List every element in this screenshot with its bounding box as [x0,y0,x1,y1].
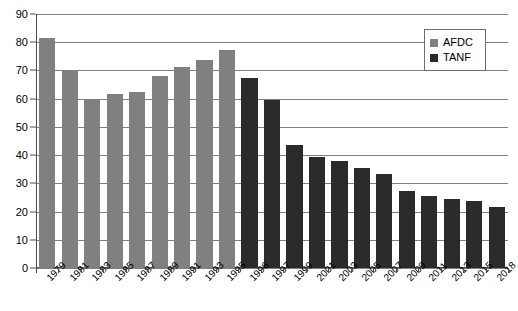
y-axis-tick-label: 80 [16,37,28,48]
bar-slot [36,14,58,268]
bar-slot [126,14,148,268]
bar-afdc-1979[interactable] [39,38,55,268]
bar-slot [171,14,193,268]
x-axis-tick-mark [193,268,194,273]
y-axis-tick-label: 90 [16,9,28,20]
bar-slot [373,14,395,268]
x-axis-tick-mark [373,268,374,273]
bar-afdc-1993[interactable] [196,60,212,268]
bar-slot [396,14,418,268]
x-axis-tick-mark [441,268,442,273]
bar-tanf-1996[interactable] [241,78,257,268]
x-axis-tick-mark [81,268,82,273]
bar-slot [261,14,283,268]
y-axis: 9080706050403020100 [0,0,36,269]
x-axis-tick-mark [486,268,487,273]
x-axis-tick-mark [306,268,307,273]
bar-afdc-1989[interactable] [152,76,168,268]
y-axis-tick-label: 40 [16,150,28,161]
bar-tanf-2011[interactable] [421,196,437,268]
x-axis-tick-mark [418,268,419,273]
bar-afdc-1995[interactable] [219,50,235,268]
x-axis-tick-mark [261,268,262,273]
bar-tanf-2018[interactable] [489,207,505,268]
x-axis-tick-mark [126,268,127,273]
x-axis-tick-mark [171,268,172,273]
x-axis-tick-mark [508,268,509,273]
bar-slot [216,14,238,268]
x-axis: 1979198119831985198719891991199319951996… [36,268,508,311]
bar-tanf-2013[interactable] [444,199,460,268]
bar-tanf-2001[interactable] [309,157,325,268]
bar-afdc-1983[interactable] [84,99,100,268]
x-axis-tick-mark [283,268,284,273]
bar-slot [351,14,373,268]
legend-swatch-icon [430,39,438,47]
bar-tanf-2003[interactable] [331,161,347,268]
x-axis-tick-mark [216,268,217,273]
legend-label: AFDC [443,37,473,48]
bar-slot [238,14,260,268]
bar-tanf-1997[interactable] [264,100,280,268]
x-axis-tick-mark [351,268,352,273]
bar-tanf-2007[interactable] [376,174,392,268]
x-axis-tick-mark [238,268,239,273]
bar-afdc-1987[interactable] [129,92,145,268]
legend-item-afdc[interactable]: AFDC [430,35,479,50]
bar-tanf-2009[interactable] [399,191,415,268]
bar-slot [283,14,305,268]
legend-label: TANF [443,52,471,63]
y-axis-tick-label: 50 [16,121,28,132]
bar-chart: 9080706050403020100 19791981198319851987… [0,0,518,311]
bar-slot [148,14,170,268]
y-axis-tick-label: 60 [16,93,28,104]
bar-afdc-1981[interactable] [62,71,78,268]
bar-tanf-1999[interactable] [286,145,302,268]
bar-tanf-2005[interactable] [354,168,370,268]
x-axis-tick-mark [103,268,104,273]
chart-legend: AFDCTANF [424,29,486,71]
bar-slot [486,14,508,268]
bar-slot [193,14,215,268]
legend-item-tanf[interactable]: TANF [430,50,479,65]
bar-afdc-1991[interactable] [174,67,190,268]
x-axis-tick-mark [463,268,464,273]
bar-slot [103,14,125,268]
legend-swatch-icon [430,54,438,62]
bar-afdc-1985[interactable] [107,94,123,268]
x-axis-tick-mark [58,268,59,273]
x-axis-tick-mark [148,268,149,273]
bar-slot [81,14,103,268]
y-axis-tick-label: 0 [22,263,28,274]
y-axis-tick-label: 70 [16,65,28,76]
bar-tanf-2015[interactable] [466,201,482,268]
bar-slot [58,14,80,268]
y-axis-tick-label: 20 [16,206,28,217]
bar-slot [328,14,350,268]
bar-slot [306,14,328,268]
y-axis-tick-label: 10 [16,234,28,245]
x-axis-tick-mark [328,268,329,273]
y-axis-tick-label: 30 [16,178,28,189]
x-axis-tick-mark [36,268,37,273]
x-axis-tick-mark [396,268,397,273]
